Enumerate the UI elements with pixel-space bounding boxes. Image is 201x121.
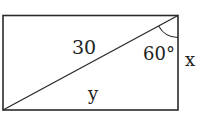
- angle-label: 60°: [143, 43, 175, 64]
- side-x-label: x: [185, 49, 195, 70]
- side-y-label: y: [87, 83, 99, 104]
- diagonal-length-label: 30: [72, 36, 96, 58]
- angle-arc: [159, 26, 178, 38]
- rectangle-diagram: 30 60° x y: [0, 0, 201, 121]
